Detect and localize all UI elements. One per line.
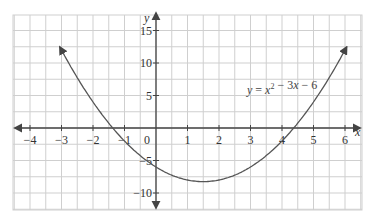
x-tick-label: 1 (185, 133, 191, 147)
y-tick-label: 15 (140, 24, 152, 38)
x-tick-label: 2 (216, 133, 222, 147)
x-tick-label: 0 (144, 133, 150, 147)
x-tick-label: 3 (248, 133, 254, 147)
y-axis-label: y (143, 11, 150, 25)
x-tick-label: −4 (24, 133, 37, 147)
x-tick-label: −3 (55, 133, 68, 147)
x-tick-label: 6 (342, 133, 348, 147)
y-tick-label: −10 (133, 186, 152, 200)
x-tick-label: −2 (87, 133, 100, 147)
x-tick-label: 4 (279, 133, 285, 147)
y-tick-label: 5 (146, 89, 152, 103)
parabola-graph: −4−3−2−10123456−10−551015 y = x2 − 3x − … (0, 0, 369, 220)
x-tick-label: 5 (311, 133, 317, 147)
grid (13, 15, 362, 210)
y-tick-label: 10 (140, 56, 152, 70)
x-axis-label: x (354, 125, 361, 139)
